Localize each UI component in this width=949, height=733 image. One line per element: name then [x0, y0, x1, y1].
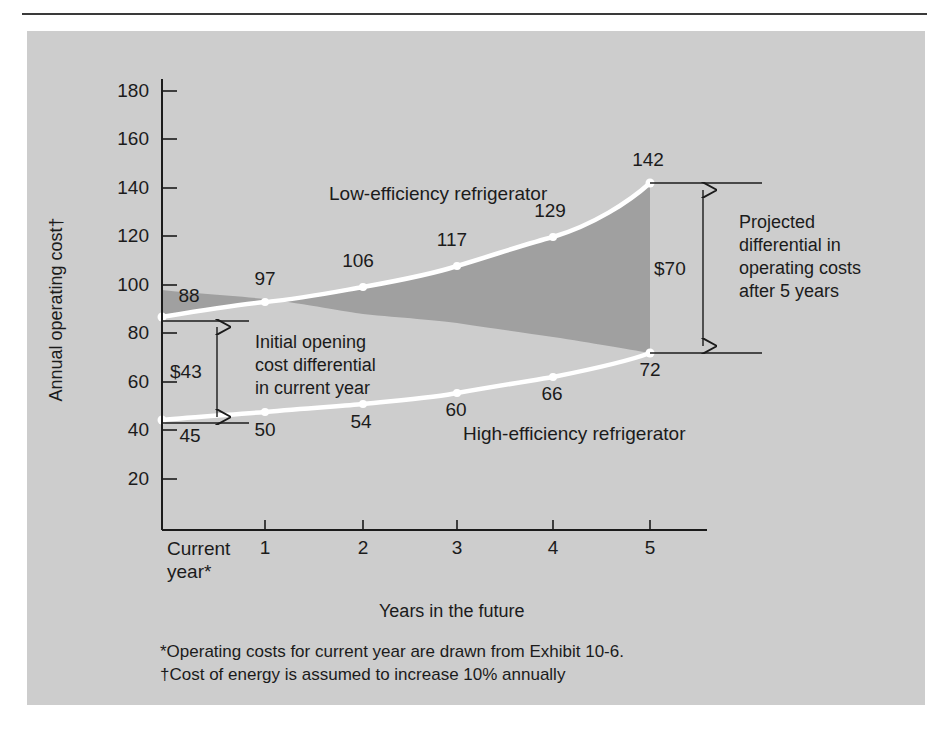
series-label-high-efficiency: High-efficiency refrigerator: [463, 423, 685, 445]
data-label-low-1: 97: [242, 268, 288, 290]
data-label-high-2: 54: [338, 411, 384, 433]
data-label-high-1: 50: [242, 419, 288, 441]
y-tick-60: 60: [105, 371, 149, 393]
footnote-2: †Cost of energy is assumed to increase 1…: [160, 663, 565, 687]
data-label-high-5: 72: [627, 359, 673, 381]
x-tick-4: 4: [523, 537, 583, 559]
annotation-initial-text: Initial opening cost differential in cur…: [255, 331, 376, 400]
annotation-projected-text: Projected differential in operating cost…: [739, 211, 861, 303]
data-label-low-3: 117: [429, 229, 475, 251]
footnote-1: *Operating costs for current year are dr…: [160, 640, 624, 664]
x-tick-2: 2: [333, 537, 393, 559]
x-axis-title: Years in the future: [379, 601, 524, 622]
data-label-high-3: 60: [433, 399, 479, 421]
y-tick-120: 120: [105, 225, 149, 247]
annotation-projected-line3: operating costs: [739, 257, 861, 280]
data-label-high-0: 45: [167, 425, 213, 447]
y-axis-title: Annual operating cost†: [46, 215, 67, 405]
x-tick-current-year: Current year*: [167, 537, 230, 583]
y-tick-180: 180: [105, 80, 149, 102]
y-tick-160: 160: [105, 128, 149, 150]
x-tick-1: 1: [235, 537, 295, 559]
chart-panel: Annual operating cost† 180 160 140 120 1…: [27, 31, 925, 705]
differential-band: [162, 183, 650, 353]
data-label-low-0: 88: [166, 285, 212, 307]
annotation-initial-line3: in current year: [255, 377, 376, 400]
x-tick-5: 5: [620, 537, 680, 559]
annotation-projected-line4: after 5 years: [739, 280, 861, 303]
curve-high-efficiency: [158, 349, 655, 425]
annotation-initial-line2: cost differential: [255, 354, 376, 377]
x-tick-current-year-line2: year*: [167, 560, 230, 583]
y-tick-140: 140: [105, 177, 149, 199]
clipped-headline-text: [160, 0, 780, 5]
data-label-high-4: 66: [529, 383, 575, 405]
annotation-projected-amount: $70: [654, 258, 686, 280]
annotation-projected-line2: differential in: [739, 234, 861, 257]
data-label-low-5: 142: [625, 149, 671, 171]
series-label-low-efficiency: Low-efficiency refrigerator: [329, 183, 547, 205]
y-tick-100: 100: [105, 274, 149, 296]
y-tick-40: 40: [105, 419, 149, 441]
annotation-initial-line1: Initial opening: [255, 331, 376, 354]
annotation-projected-line1: Projected: [739, 211, 861, 234]
x-tick-current-year-line1: Current: [167, 537, 230, 560]
x-tick-3: 3: [427, 537, 487, 559]
header-divider: [22, 13, 927, 15]
y-tick-20: 20: [105, 468, 149, 490]
data-label-low-2: 106: [335, 250, 381, 272]
annotation-initial-amount: $43: [170, 361, 202, 383]
y-tick-80: 80: [105, 322, 149, 344]
